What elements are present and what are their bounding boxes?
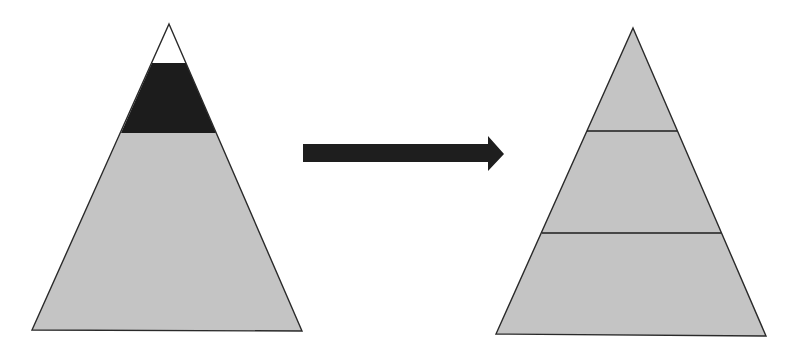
left-pyramid-base (32, 133, 302, 331)
left-pyramid-white-tip (152, 24, 186, 63)
diagram-canvas: Pyramid with a small white tip, dark ban… (0, 0, 792, 356)
diagram-svg (0, 0, 792, 356)
transform-arrow-icon (303, 136, 504, 171)
left-pyramid (32, 24, 302, 331)
right-pyramid (496, 28, 766, 336)
right-pyramid-fill (496, 28, 766, 336)
